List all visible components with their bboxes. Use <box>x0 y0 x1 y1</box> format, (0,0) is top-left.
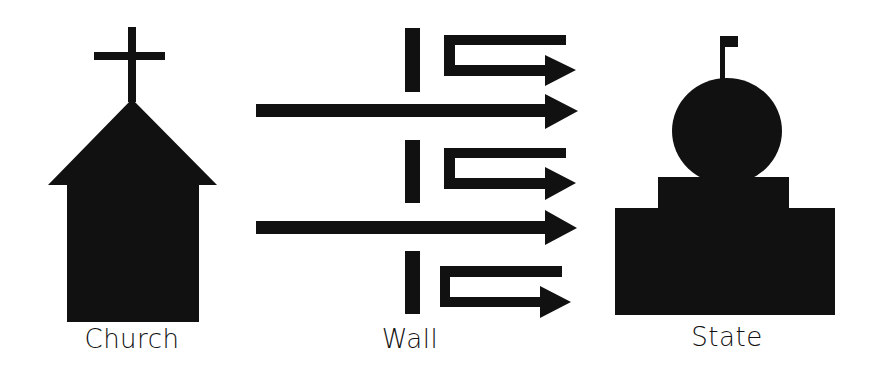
deflected-arrow-1 <box>444 35 576 86</box>
middle-tier <box>658 177 789 212</box>
church-icon <box>48 27 217 322</box>
base <box>615 208 835 315</box>
church-label: Church <box>52 324 212 354</box>
wall-segment-3 <box>405 251 420 314</box>
church-state-wall-diagram <box>0 0 879 371</box>
cross-vertical <box>128 27 136 102</box>
through-arrow-1 <box>256 94 578 129</box>
flag-icon <box>720 36 738 47</box>
deflected-arrows <box>440 35 576 318</box>
wall-segment-2 <box>405 140 420 203</box>
wall-label: Wall <box>330 324 490 354</box>
wall <box>405 28 420 314</box>
capitol-building-icon <box>615 36 835 315</box>
deflected-arrow-2 <box>444 148 576 200</box>
state-label: State <box>647 322 807 352</box>
cross-horizontal <box>94 52 165 60</box>
deflected-arrow-3 <box>440 266 571 318</box>
wall-segment-1 <box>405 28 420 92</box>
church-building <box>48 99 217 322</box>
through-arrow-2 <box>256 210 577 245</box>
dome <box>672 78 782 184</box>
